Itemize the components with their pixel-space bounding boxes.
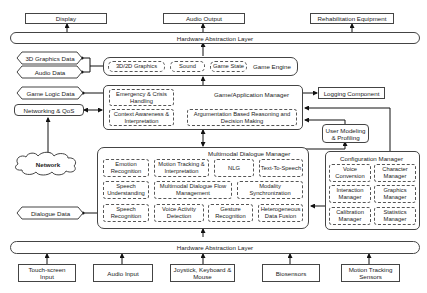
- text-to-speech-module: Text-To-Speech: [259, 159, 303, 177]
- motion-tracking-module: Motion Tracking & Interpretation: [154, 159, 209, 177]
- audio-output-box: Audio Output: [163, 13, 245, 24]
- audio-input-label: Audio Input: [107, 270, 138, 277]
- speech-recognition-module: Speech Recognition: [103, 204, 149, 222]
- hal-bottom-label: Hardware Abstraction Layer: [177, 244, 253, 251]
- configuration-manager-title: Configuration Manager: [340, 155, 403, 162]
- voice-conversion-module: Voice Conversion: [329, 164, 371, 182]
- touch-screen-input-label: Touch-screen Input: [27, 266, 67, 280]
- dialogue-manager-title: Multimodal Dialogue Manager: [208, 150, 290, 157]
- networking-qos-label: Networking & QoS: [24, 107, 75, 114]
- audio-data-label: Audio Data: [20, 66, 80, 78]
- calibration-manager-module: Calibration Manager: [329, 207, 371, 225]
- game-engine-title: Game Engine: [253, 63, 291, 70]
- game-application-manager-title: Game/Application Manager: [214, 91, 289, 98]
- biosensors-label: Biosensors: [276, 270, 307, 277]
- logging-component-box: Logging Component: [318, 87, 385, 99]
- joystick-keyboard-mouse-box: Joystick, Keyboard & Mouse: [170, 264, 235, 282]
- logging-component-label: Logging Component: [324, 90, 380, 97]
- display-box: Display: [25, 13, 107, 24]
- user-modeling-label: User Modeling & Profiling: [323, 127, 368, 141]
- emotion-recognition-module: Emotion Recognition: [103, 159, 149, 177]
- emergency-crisis-module: Emergency & Crisis Handling: [109, 89, 174, 106]
- hardware-abstraction-layer-bottom: Hardware Abstraction Layer: [10, 241, 420, 254]
- multimodal-dialogue-manager-group: Multimodal Dialogue Manager Emotion Reco…: [97, 147, 309, 229]
- configuration-manager-group: Configuration Manager Voice Conversion C…: [325, 151, 420, 230]
- dialogue-data-label: Dialogue Data: [20, 207, 81, 219]
- graphics-module: 3D/2D Graphics: [108, 61, 165, 72]
- context-awareness-module: Context Awareness & Interpretation: [109, 109, 174, 126]
- graphics-manager-module: Graphics Manager: [374, 185, 416, 203]
- motion-tracking-sensors-box: Motion Tracking Sensors: [341, 264, 400, 282]
- graphics-data-label: 3D Graphics Data: [20, 52, 80, 64]
- audio-input-box: Audio Input: [93, 264, 153, 282]
- joystick-keyboard-mouse-label: Joystick, Keyboard & Mouse: [173, 266, 233, 280]
- statistics-manager-module: Statistics Manager: [374, 207, 416, 225]
- game-application-manager-group: Emergency & Crisis Handling Context Awar…: [103, 85, 303, 130]
- biosensors-box: Biosensors: [262, 264, 320, 282]
- modality-synchronization-module: Modality Synchronization: [237, 181, 303, 199]
- network-label: Network: [22, 158, 74, 170]
- argumentation-reasoning-module: Argumentation Based Reasoning and Decisi…: [187, 109, 297, 126]
- heterogeneous-data-fusion-module: Heterogeneous Data Fusion: [258, 204, 303, 222]
- nlg-module: NLG: [214, 159, 254, 177]
- touch-screen-input-box: Touch-screen Input: [18, 264, 76, 282]
- speech-understanding-module: Speech Understanding: [103, 181, 149, 199]
- display-label: Display: [56, 15, 76, 22]
- rehabilitation-equipment-label: Rehabilitation Equipment: [318, 15, 387, 22]
- hal-top-label: Hardware Abstraction Layer: [177, 35, 253, 42]
- audio-output-label: Audio Output: [186, 15, 222, 22]
- networking-qos-box: Networking & QoS: [14, 104, 84, 116]
- sound-module: Sound: [170, 61, 205, 72]
- interaction-manager-module: Interaction Manager: [329, 185, 371, 203]
- hardware-abstraction-layer-top: Hardware Abstraction Layer: [10, 32, 420, 44]
- gesture-recognition-module: Gesture Recognition: [208, 204, 253, 222]
- game-state-module: Game State: [210, 61, 247, 72]
- game-logic-data-label: Game Logic Data: [20, 87, 81, 99]
- motion-tracking-sensors-label: Motion Tracking Sensors: [346, 266, 396, 280]
- character-manager-module: Character Manager: [374, 164, 416, 182]
- game-engine-group: 3D/2D Graphics Sound Game State Game Eng…: [103, 57, 298, 76]
- rehabilitation-equipment-box: Rehabilitation Equipment: [310, 13, 394, 24]
- voice-activity-detection-module: Voice Activity Detection: [154, 204, 204, 222]
- user-modeling-box: User Modeling & Profiling: [322, 124, 369, 143]
- dialogue-flow-management-module: Multimodal Dialogue Flow Management: [154, 181, 232, 199]
